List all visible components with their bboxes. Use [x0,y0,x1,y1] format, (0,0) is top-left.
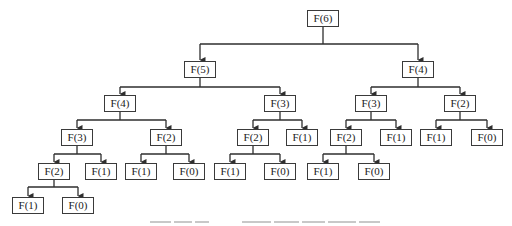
tree-node: F(2) [150,129,182,146]
tree-node: F(0) [358,163,390,180]
tree-node: F(2) [237,129,269,146]
tree-node: F(0) [173,163,205,180]
tree-node: F(1) [380,129,412,146]
tree-node: F(1) [12,197,44,214]
tree-node: F(3) [264,95,296,112]
tree-node: F(1) [214,163,246,180]
tree-node: F(1) [420,129,452,146]
tree-node: F(1) [125,163,157,180]
tree-node: F(3) [61,129,93,146]
figure-caption-cropped [150,221,380,226]
fibonacci-recursion-tree-diagram: F(6)F(5)F(4)F(4)F(3)F(3)F(2)F(3)F(2)F(2)… [0,0,512,226]
tree-edges [0,0,512,226]
tree-node: F(0) [471,129,503,146]
tree-node: F(1) [286,129,318,146]
tree-node: F(5) [184,61,216,78]
tree-node: F(0) [264,163,296,180]
tree-node: F(2) [38,163,70,180]
tree-node: F(0) [62,197,94,214]
tree-node: F(3) [355,95,387,112]
tree-node: F(2) [444,95,476,112]
tree-node: F(4) [402,61,434,78]
tree-node: F(1) [85,163,117,180]
tree-node: F(6) [307,10,339,27]
tree-node: F(1) [307,163,339,180]
tree-node: F(4) [104,95,136,112]
tree-node: F(2) [330,129,362,146]
